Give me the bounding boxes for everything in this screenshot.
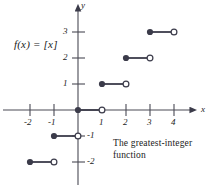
open-endpoint-3 (147, 55, 153, 61)
caption-line-2: function (113, 150, 146, 161)
open-endpoint-neg1 (51, 159, 57, 165)
x-tick-label-pos2: 2 (123, 117, 128, 128)
y-axis-label: y (81, 0, 85, 11)
open-endpoint-4 (171, 29, 177, 35)
x-axis-label: x (201, 104, 205, 115)
y-tick-label-neg1: -1 (87, 130, 95, 141)
x-tick-label-pos4: 4 (171, 117, 176, 128)
closed-endpoint-neg1 (51, 133, 57, 139)
greatest-integer-function-figure: -2 -1 1 2 3 4 3 2 1 -1 -2 x y f(x) = [x]… (0, 0, 218, 188)
y-tick-label-pos3: 3 (63, 26, 68, 37)
x-tick-label-neg2: -2 (24, 117, 32, 128)
y-tick-label-neg2: -2 (87, 156, 95, 167)
open-endpoint-2 (123, 81, 129, 87)
y-tick-label-pos2: 2 (63, 52, 68, 63)
open-endpoint-1 (99, 107, 105, 113)
step-function-plot (0, 0, 218, 188)
closed-endpoint-2 (123, 55, 129, 61)
closed-endpoint-0 (75, 107, 81, 113)
function-equation-label: f(x) = [x] (14, 38, 58, 51)
x-tick-label-neg1: -1 (48, 117, 56, 128)
closed-endpoint-neg2 (27, 159, 33, 165)
closed-endpoint-1 (99, 81, 105, 87)
closed-endpoint-3 (147, 29, 153, 35)
y-tick-label-pos1: 1 (63, 78, 68, 89)
open-endpoint-0 (75, 133, 81, 139)
x-tick-label-pos3: 3 (147, 117, 152, 128)
x-tick-label-pos1: 1 (99, 117, 104, 128)
caption-line-1: The greatest-integer (113, 138, 192, 149)
